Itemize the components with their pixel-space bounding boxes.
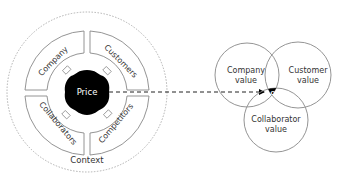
circle-company-value (215, 43, 279, 107)
collaborator-value-line2: value (265, 125, 287, 134)
customer-value-line2: value (297, 76, 319, 85)
value-venn (215, 42, 331, 152)
company-value-line2: value (235, 76, 257, 85)
price-ovp-diagram: Context Price Company Customers Collabor… (0, 0, 344, 181)
ovp-label: OVP (271, 90, 284, 96)
circle-customer-value (265, 42, 331, 108)
context-label: Context (70, 155, 104, 165)
price-label: Price (77, 87, 98, 97)
company-value-line1: Company (227, 66, 265, 75)
customer-value-line1: Customer (289, 66, 329, 75)
collaborator-value-line1: Collaborator (251, 115, 301, 124)
price-center: Price (65, 70, 110, 115)
